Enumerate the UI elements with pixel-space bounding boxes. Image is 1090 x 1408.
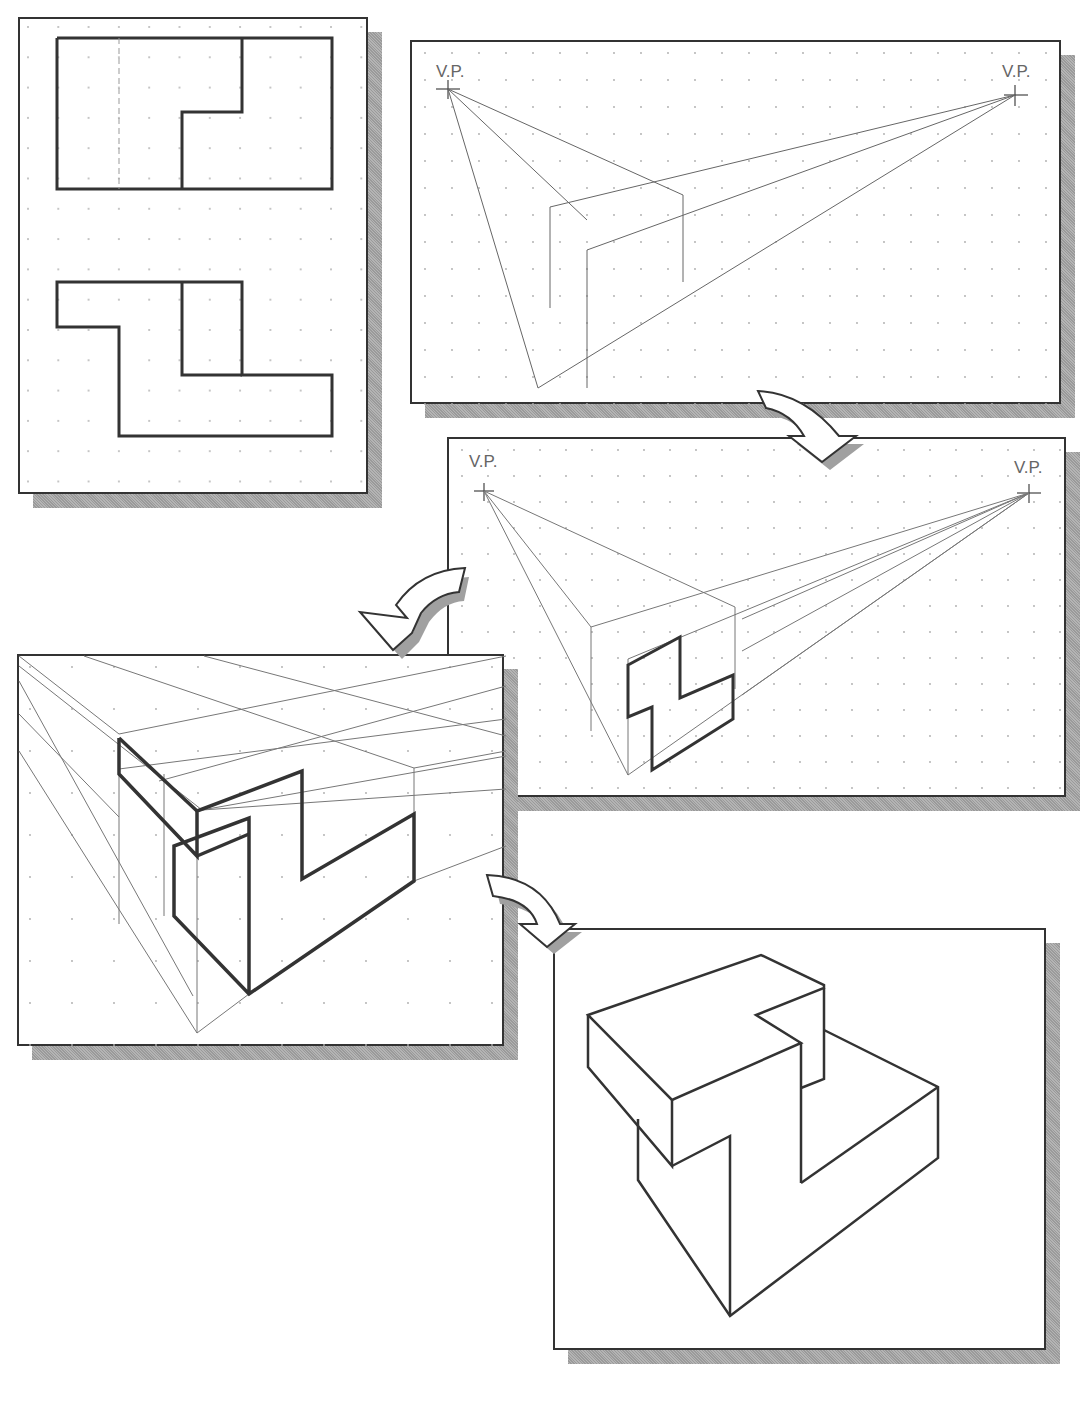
panel-perspective-box: V.P. V.P. (410, 40, 1061, 404)
final-object (588, 955, 938, 1316)
perspective-box-drawing: V.P. V.P. (412, 42, 1063, 406)
panel-enlarged-construction (17, 654, 504, 1046)
panel-front-face-projection: V.P. V.P. (447, 437, 1066, 797)
orthographic-views-drawing (20, 19, 370, 496)
front-face-projection-drawing: V.P. V.P. (449, 439, 1068, 799)
right-vp-label: V.P. (1002, 62, 1030, 81)
right-vp-label: V.P. (1014, 458, 1042, 477)
left-vp-label: V.P. (436, 62, 464, 81)
panel-orthographic-views (18, 17, 368, 494)
left-vp-label: V.P. (469, 452, 497, 471)
panel-final-perspective (553, 928, 1046, 1350)
enlarged-construction-drawing (19, 656, 506, 1048)
final-perspective-drawing (555, 930, 1048, 1352)
